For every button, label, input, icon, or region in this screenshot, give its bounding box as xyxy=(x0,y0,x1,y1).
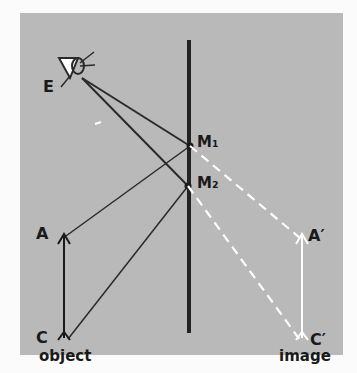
label-m1: M₁ xyxy=(197,133,219,151)
label-m2: M₂ xyxy=(197,174,219,192)
ray-c-m2 xyxy=(68,186,188,339)
image-arrow xyxy=(296,234,308,340)
virtual-ray-m1-a-prime xyxy=(190,146,300,238)
object-arrow xyxy=(58,234,70,340)
label-a: A xyxy=(36,224,49,243)
label-c: C xyxy=(36,328,48,347)
virtual-ray-m2-c-prime xyxy=(188,186,300,340)
ray-eye-m1 xyxy=(82,78,190,146)
label-a-prime: A′ xyxy=(308,226,325,245)
label-eye: E xyxy=(43,77,54,96)
ray-a-m1 xyxy=(66,146,190,236)
label-object: object xyxy=(39,347,91,365)
label-image: image xyxy=(279,347,331,365)
ray-eye-m2 xyxy=(82,78,188,186)
mirror-diagram: E M₁ M₂ A C object A′ C′ image xyxy=(0,0,357,373)
virtual-ray-spark xyxy=(95,122,101,124)
